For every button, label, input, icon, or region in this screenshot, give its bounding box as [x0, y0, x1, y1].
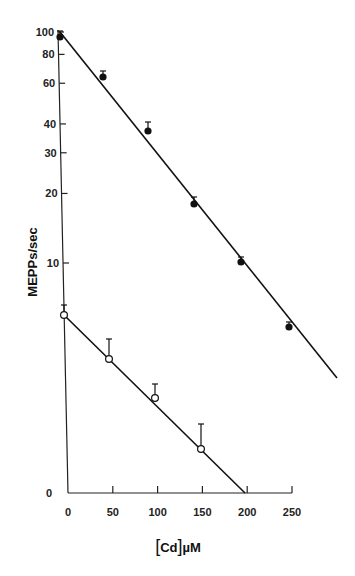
x-tick-label: 150	[193, 506, 211, 518]
y-tick-label: 10	[47, 257, 59, 269]
open-data-point	[152, 395, 159, 402]
x-axis-title: [Cd]µM	[155, 536, 201, 556]
x-tick-label: 100	[148, 506, 166, 518]
open-fit-line	[63, 314, 245, 493]
y-tick-label: 60	[43, 77, 55, 89]
filled-data-point	[99, 73, 106, 80]
filled-data-point	[237, 258, 244, 265]
x-tick-label: 200	[238, 506, 256, 518]
y-tick-label: 0	[46, 487, 52, 499]
y-tick-label: 40	[44, 118, 56, 130]
y-tick-label: 30	[44, 147, 56, 159]
filled-fit-line	[60, 32, 337, 378]
y-tick-label: 100	[36, 26, 54, 38]
y-axis-title: MEPPs/sec	[25, 227, 40, 296]
data-points	[56, 31, 292, 452]
x-tick-label: 50	[107, 506, 119, 518]
filled-data-point	[285, 323, 292, 330]
x-tick-label: 250	[283, 506, 301, 518]
x-tick-label: 0	[65, 506, 71, 518]
y-tick-label: 20	[45, 187, 57, 199]
filled-data-point	[190, 200, 197, 207]
open-data-point	[198, 446, 205, 453]
filled-data-point	[144, 127, 151, 134]
x-ticks: 050100150200250	[65, 486, 301, 518]
chart: 1008060403020100 050100150200250 MEPPs/s…	[0, 0, 355, 576]
filled-data-point	[56, 33, 63, 40]
open-data-point	[61, 312, 68, 319]
open-data-point	[106, 356, 113, 363]
y-ticks: 1008060403020100	[36, 26, 69, 499]
y-tick-label: 80	[42, 48, 54, 60]
